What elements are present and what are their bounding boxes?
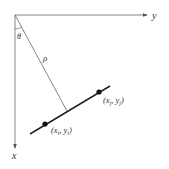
rho-label: ρ: [42, 53, 48, 63]
normal-line-rho: [15, 15, 67, 111]
point-i: [42, 121, 47, 126]
theta-arc: [15, 27, 22, 29]
point-j-label: (xj, yj): [103, 95, 124, 106]
point-i-label: (xi, yi): [51, 125, 72, 136]
point-j: [96, 89, 101, 94]
x-axis-label: x: [11, 150, 17, 161]
theta-label: θ: [17, 32, 21, 41]
hough-normal-diagram: y x θ ρ (xi, yi) (xj, yj): [0, 0, 169, 169]
y-axis-label: y: [151, 10, 157, 21]
